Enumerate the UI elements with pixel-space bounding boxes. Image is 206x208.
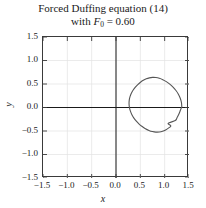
x-tick-label: 1.5 (171, 181, 205, 190)
figure-container: Forced Duffing equation (14) with F0 = 0… (0, 0, 206, 208)
y-axis-title: y (3, 98, 14, 112)
x-axis-title: x (0, 193, 206, 204)
x-axis-tick-labels: −1.5−1.0−0.50.00.51.01.5 (0, 0, 206, 208)
